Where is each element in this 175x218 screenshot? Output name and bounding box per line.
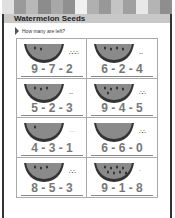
stripe: [99, 0, 111, 14]
arrow-icon: [15, 27, 19, 35]
seeds-aside: ∴∴: [139, 127, 145, 134]
equation: 6 - 2 - 4: [91, 63, 153, 77]
equation: 9 - 7 - 2: [21, 63, 83, 77]
problem-cell: ∴∴6 - 6 - 0: [87, 118, 157, 158]
stripe: [136, 0, 148, 14]
equation: 8 - 5 - 3: [21, 182, 83, 196]
watermelon-slice-icon: [23, 42, 65, 64]
equation: 5 - 2 - 3: [21, 102, 83, 116]
problem-cell: ∴∴∴9 - 7 - 2: [17, 39, 87, 79]
problem-cell: ∴∴9 - 4 - 5: [87, 79, 157, 119]
stripe: [14, 0, 26, 14]
problem-cell: ‥6 - 2 - 4: [87, 39, 157, 79]
watermelon-slice-icon: [23, 121, 65, 143]
stripe: [38, 0, 50, 14]
seeds-aside: ‥: [139, 48, 142, 55]
stripe: [51, 0, 63, 14]
equation: 9 - 1 - 8: [91, 182, 153, 196]
stripe: [148, 0, 160, 14]
equation: 9 - 4 - 5: [91, 102, 153, 116]
watermelon-slice-icon: [93, 121, 135, 143]
problem-cell: …4 - 3 - 1: [17, 118, 87, 158]
stripe: [111, 0, 123, 14]
stripe: [160, 0, 172, 14]
problem-grid: ∴∴∴9 - 7 - 2 ‥6 - 2 - 4 ‥5 - 2 - 3 ∴∴9 -…: [16, 38, 158, 198]
stripe: [87, 0, 99, 14]
problem-cell: ·9 - 1 - 8: [87, 158, 157, 198]
stripe: [63, 0, 75, 14]
header-stripes: [2, 0, 172, 14]
stripe: [123, 0, 135, 14]
seeds-aside: ∴∴: [139, 88, 145, 95]
stripe: [75, 0, 87, 14]
problem-cell: ‥5 - 2 - 3: [17, 79, 87, 119]
watermelon-slice-icon: [93, 161, 135, 183]
seeds-aside: ∴∴∴: [69, 48, 78, 55]
seeds-aside: ‥: [69, 88, 72, 95]
seeds-aside: ∴∴: [69, 167, 75, 174]
seeds-aside: ·: [139, 167, 140, 173]
stripe: [26, 0, 38, 14]
instruction-text: How many are left?: [22, 27, 65, 35]
footer: [20, 206, 155, 209]
equation: 4 - 3 - 1: [21, 142, 83, 156]
equation: 6 - 6 - 0: [91, 142, 153, 156]
problem-cell: ∴∴8 - 5 - 3: [17, 158, 87, 198]
page-title: Watermelon Seeds: [14, 14, 85, 23]
watermelon-slice-icon: [93, 42, 135, 64]
seeds-aside: …: [69, 127, 74, 133]
stripe: [2, 0, 14, 14]
watermelon-slice-icon: [23, 161, 65, 183]
